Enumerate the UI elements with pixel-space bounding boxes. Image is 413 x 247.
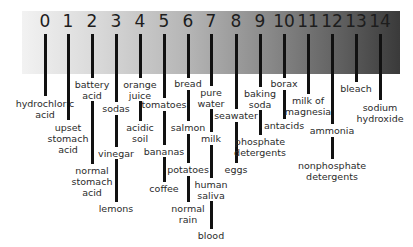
label-salmon: salmon <box>171 122 206 133</box>
leader-line <box>235 34 238 109</box>
label-antacids: antacids <box>264 120 304 131</box>
leader-line <box>331 137 334 159</box>
ph-number-2: 2 <box>80 12 104 30</box>
label-hydrochloric-acid: hydrochloric acid <box>16 98 75 120</box>
leader-line <box>163 157 166 182</box>
ph-number-14: 14 <box>368 12 392 30</box>
leader-line <box>44 34 47 96</box>
leader-line <box>187 90 190 121</box>
leader-line <box>139 34 142 78</box>
label-milk: milk <box>201 133 221 144</box>
leader-line <box>210 109 213 132</box>
leader-line <box>259 110 262 135</box>
leader-line <box>379 34 382 100</box>
label-sodium-hydroxide: sodium hydroxide <box>356 102 403 124</box>
ph-number-6: 6 <box>176 12 200 30</box>
label-battery-acid: battery acid <box>75 79 110 101</box>
leader-line <box>187 176 190 202</box>
label-nonphosphate-detergents: nonphosphate detergents <box>298 160 366 182</box>
ph-number-13: 13 <box>344 12 368 30</box>
leader-line <box>115 159 118 202</box>
leader-line <box>163 111 166 145</box>
label-ammonia: ammonia <box>310 125 355 136</box>
label-bleach: bleach <box>340 83 372 94</box>
leader-line <box>307 34 310 94</box>
ph-number-1: 1 <box>56 12 80 30</box>
label-potatoes: potatoes <box>167 164 209 175</box>
leader-line <box>259 34 262 87</box>
label-normal-rain: normal rain <box>171 203 204 225</box>
leader-line <box>283 34 286 78</box>
label-vinegar: vinegar <box>98 148 134 159</box>
label-normal-stomach-acid: normal stomach acid <box>72 165 113 198</box>
label-upset-stomach-acid: upset stomach acid <box>48 122 89 155</box>
leader-line <box>67 34 70 120</box>
ph-number-5: 5 <box>152 12 176 30</box>
ph-number-12: 12 <box>320 12 344 30</box>
ph-number-11: 11 <box>296 12 320 30</box>
ph-number-9: 9 <box>248 12 272 30</box>
label-baking-soda: baking soda <box>244 88 276 110</box>
leader-line <box>187 134 190 163</box>
label-phosphate-detergents: phosphate detergents <box>234 136 286 158</box>
label-coffee: coffee <box>149 183 178 194</box>
leader-line <box>163 34 166 98</box>
label-seawater: seawater <box>214 110 258 121</box>
ph-number-3: 3 <box>104 12 128 30</box>
leader-line <box>210 34 213 86</box>
ph-number-8: 8 <box>224 12 248 30</box>
label-milk-of-magnesia: milk of magnesia <box>285 95 331 117</box>
leader-line <box>355 34 358 82</box>
label-tomatoes: tomatoes <box>142 99 187 110</box>
leader-line <box>115 115 118 147</box>
leader-line <box>187 34 190 78</box>
label-orange-juice: orange juice <box>123 79 156 101</box>
label-acidic-soil: acidic soil <box>126 122 154 144</box>
label-borax: borax <box>270 78 297 89</box>
label-eggs: eggs <box>225 164 248 175</box>
leader-line <box>115 34 118 102</box>
label-pure-water: pure water <box>197 87 224 109</box>
leader-line <box>210 201 213 229</box>
label-human-saliva: human saliva <box>194 179 227 201</box>
ph-number-7: 7 <box>199 12 223 30</box>
ph-number-0: 0 <box>33 12 57 30</box>
label-lemons: lemons <box>99 203 134 214</box>
leader-line <box>331 34 334 124</box>
leader-line <box>91 101 94 164</box>
leader-line <box>91 34 94 78</box>
leader-line <box>210 145 213 178</box>
ph-number-4: 4 <box>128 12 152 30</box>
label-sodas: sodas <box>102 103 130 114</box>
label-blood: blood <box>198 230 224 241</box>
label-bananas: bananas <box>144 146 185 157</box>
ph-number-10: 10 <box>272 12 296 30</box>
